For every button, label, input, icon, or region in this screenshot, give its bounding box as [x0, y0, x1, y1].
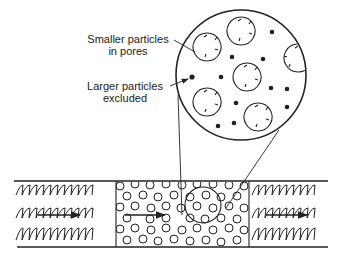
- projection-line-right: [226, 130, 279, 208]
- label-smaller-particles-line2: in pores: [80, 45, 176, 57]
- label-smaller-particles-line1: Smaller particles: [80, 33, 176, 45]
- label-larger-particles-line1: Larger particles: [78, 80, 172, 92]
- magnified-view: [176, 10, 312, 140]
- label-larger-particles: Larger particles excluded: [78, 80, 172, 104]
- projection-line-left: [178, 95, 182, 215]
- column: [14, 180, 328, 247]
- flow-lines-left: [16, 185, 93, 240]
- flow-lines-right: [252, 185, 315, 240]
- label-larger-particles-line2: excluded: [78, 92, 172, 104]
- label-smaller-particles: Smaller particles in pores: [80, 33, 176, 57]
